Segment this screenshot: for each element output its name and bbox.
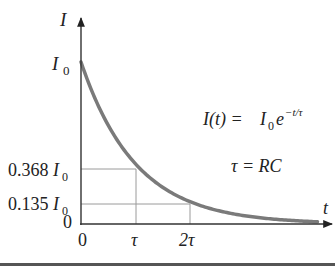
x-tick-tau: τ — [131, 230, 138, 250]
x-tick-2tau: 2τ — [179, 230, 195, 250]
svg-text:0: 0 — [268, 119, 274, 133]
equation-current: I(t) = I 0 e −t/τ — [202, 106, 304, 133]
y-tick-0368: 0.368 I 0 — [8, 160, 68, 184]
decay-curve — [81, 62, 318, 222]
svg-text:e: e — [276, 109, 284, 129]
y-axis-label: I — [59, 9, 68, 30]
x-axis-label: t — [323, 198, 329, 218]
svg-text:0.368: 0.368 — [8, 160, 49, 180]
svg-text:I: I — [51, 53, 60, 74]
svg-text:0: 0 — [63, 63, 70, 78]
svg-text:I: I — [52, 194, 60, 214]
svg-text:I: I — [259, 109, 267, 129]
y-tick-I0: I 0 — [51, 53, 70, 78]
svg-text:I: I — [52, 160, 60, 180]
svg-text:I(t) =: I(t) = — [202, 109, 243, 130]
svg-text:0: 0 — [62, 170, 68, 184]
guide-lines — [81, 169, 190, 224]
decay-chart: I t I 0 0.368 I 0 0.135 I 0 0 0 τ 2τ I(t… — [0, 0, 335, 266]
equation-time-constant: τ = RC — [231, 156, 283, 176]
y-tick-zero: 0 — [63, 212, 72, 232]
svg-text:0.135: 0.135 — [8, 194, 49, 214]
y-tick-0135: 0.135 I 0 — [8, 194, 68, 218]
x-tick-zero: 0 — [78, 230, 87, 250]
svg-text:−t/τ: −t/τ — [285, 106, 304, 118]
